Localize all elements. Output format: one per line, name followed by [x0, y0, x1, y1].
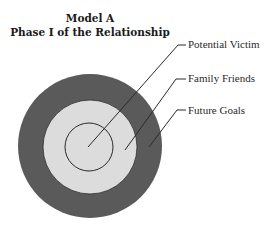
- inner-circle-potential-victim: [65, 123, 113, 171]
- concentric-circles-diagram: [0, 0, 274, 235]
- label-family-friends: Family Friends: [188, 71, 255, 85]
- label-future-goals: Future Goals: [188, 103, 245, 117]
- label-potential-victim: Potential Victim: [188, 37, 260, 51]
